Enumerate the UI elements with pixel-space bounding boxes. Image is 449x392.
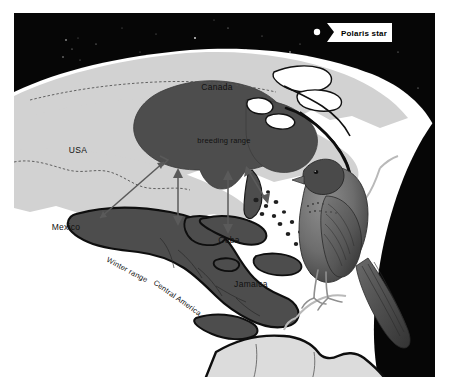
label-cuba: Cuba	[218, 235, 240, 245]
bird-eye	[314, 170, 319, 174]
scene: Canada USA Mexico breeding range Cuba Ja…	[14, 13, 435, 392]
label-usa: USA	[69, 145, 87, 155]
jamaica-island	[214, 258, 240, 271]
label-mexico: Mexico	[52, 222, 81, 232]
bird-eye-highlight	[315, 171, 316, 172]
label-canada: Canada	[201, 82, 233, 92]
label-breeding-range: breeding range	[197, 136, 250, 145]
polaris-callout-label: Polaris star	[341, 29, 387, 38]
star-dot-icon	[314, 29, 320, 35]
label-jamaica: Jamaica	[234, 279, 268, 289]
map-canvas: Canada USA Mexico breeding range Cuba Ja…	[0, 0, 449, 392]
bird-head	[303, 159, 344, 194]
migration-map-figure: Canada USA Mexico breeding range Cuba Ja…	[0, 0, 449, 392]
